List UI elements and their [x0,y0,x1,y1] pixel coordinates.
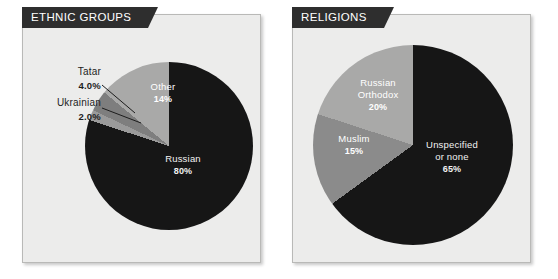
panel-tab-religions: RELIGIONS [292,7,384,28]
pie-religions-slices [313,45,513,245]
panel-tab-ethnic-groups: ETHNIC GROUPS [22,7,148,28]
slice-name-tatar: Tatar [39,66,101,79]
infographic-canvas: ETHNIC GROUPS Other 14% Russian 80% Tata… [0,0,558,279]
panel-religions: RELIGIONS Russian Orthodox 20% Muslim 15… [292,14,531,263]
pie-ethnic-slices [85,62,253,230]
slice-label-tatar: Tatar 4.0% [39,66,101,92]
panel-tab-label: ETHNIC GROUPS [31,11,131,23]
slice-name-ukrainian: Ukrainian [23,97,101,110]
panel-tab-label: RELIGIONS [301,11,367,23]
panel-ethnic-groups: ETHNIC GROUPS Other 14% Russian 80% Tata… [22,14,261,263]
slice-value-tatar: 4.0% [39,80,101,92]
